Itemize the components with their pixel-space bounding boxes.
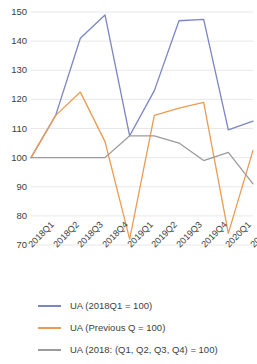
legend-item-3[interactable]: UA (2018: (Q1, Q2, Q3, Q4) = 100) [0,339,257,361]
legend-swatch-icon [38,327,61,329]
y-tick-label: 90 [16,182,27,192]
y-tick-label: 130 [11,66,27,76]
y-tick-label: 100 [11,153,27,163]
y-tick-label: 150 [11,7,27,17]
plot-svg [31,12,253,245]
legend-label: UA (2018: (Q1, Q2, Q3, Q4) = 100) [70,345,218,355]
legend-item-2[interactable]: UA (Previous Q = 100) [0,317,257,339]
legend-swatch-icon [38,349,61,351]
legend-label: UA (Previous Q = 100) [70,323,165,333]
y-tick-label: 140 [11,36,27,46]
y-tick-label: 80 [16,211,27,221]
gridlines [31,12,253,245]
legend-swatch-icon [38,305,61,307]
x-axis: 2018Q12018Q22018Q32018Q42019Q12019Q22019… [31,243,257,289]
legend-item-1[interactable]: UA (2018Q1 = 100) [0,295,257,317]
y-tick-label: 120 [11,95,27,105]
legend-label: UA (2018Q1 = 100) [70,301,152,311]
chart-legend: UA (2018Q1 = 100)UA (Previous Q = 100)UA… [0,295,257,361]
y-tick-label: 110 [12,124,27,134]
series-lines [31,15,253,239]
y-axis: 150140130120110100908070 [0,12,27,245]
line-chart: 150140130120110100908070 2018Q12018Q2201… [0,0,257,364]
plot-area [31,12,253,245]
